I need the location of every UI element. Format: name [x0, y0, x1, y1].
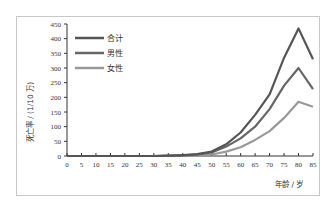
series-line	[67, 28, 313, 156]
x-tick-label: 50	[208, 161, 216, 169]
legend-label: 男性	[107, 48, 123, 58]
series-lines	[67, 28, 313, 156]
x-tick-label: 15	[107, 161, 115, 169]
x-tick-label: 30	[150, 161, 158, 169]
y-tick-label: 450	[51, 21, 62, 29]
y-tick-label: 50	[54, 138, 62, 146]
y-tick-label: 200	[51, 94, 62, 102]
line-chart: 050100150200250300350400450 051015202530…	[0, 0, 334, 209]
x-tick-label: 35	[165, 161, 173, 169]
series-line	[67, 68, 313, 156]
x-tick-label: 45	[194, 161, 202, 169]
y-tick-label: 0	[58, 153, 62, 161]
y-axis: 050100150200250300350400450	[51, 21, 68, 161]
x-tick-label: 40	[179, 161, 187, 169]
legend: 合计男性女性	[75, 33, 123, 73]
y-tick-label: 300	[51, 65, 62, 73]
x-tick-label: 80	[295, 161, 303, 169]
x-tick-label: 55	[223, 161, 231, 169]
y-tick-label: 150	[51, 109, 62, 117]
y-tick-label: 250	[51, 79, 62, 87]
legend-label: 合计	[107, 33, 123, 43]
x-tick-label: 75	[281, 161, 289, 169]
x-tick-label: 0	[65, 161, 69, 169]
y-tick-label: 400	[51, 35, 62, 43]
x-tick-label: 20	[121, 161, 129, 169]
x-tick-label: 10	[92, 161, 100, 169]
x-tick-label: 65	[252, 161, 260, 169]
y-tick-label: 100	[51, 123, 62, 131]
y-tick-label: 350	[51, 50, 62, 58]
x-tick-label: 60	[237, 161, 245, 169]
x-axis-title: 年龄 / 岁	[275, 179, 303, 189]
series-line	[67, 102, 313, 156]
x-tick-label: 85	[310, 161, 318, 169]
y-axis-title: 死亡率 / (1/10 万)	[25, 82, 35, 142]
x-tick-label: 70	[266, 161, 274, 169]
x-tick-label: 25	[136, 161, 144, 169]
legend-label: 女性	[107, 63, 123, 73]
x-tick-label: 5	[80, 161, 84, 169]
